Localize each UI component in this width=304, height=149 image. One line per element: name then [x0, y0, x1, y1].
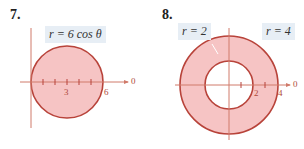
polar-axis-label-7: 0: [131, 76, 136, 86]
problem-8-number: 8.: [162, 7, 173, 23]
tick-label-6: 6: [104, 87, 109, 97]
tick-label-3: 3: [64, 87, 69, 97]
polar-axis-label-8: 0: [293, 79, 298, 89]
graph-8: [175, 28, 291, 140]
tick-label-2: 2: [254, 88, 259, 98]
graphs-canvas: [0, 0, 304, 149]
tick-label-4: 4: [278, 88, 283, 98]
problem-7-number: 7.: [10, 7, 21, 23]
outer-circle-label: r = 4: [262, 23, 295, 40]
problem-7-equation-label: r = 6 cos θ: [45, 26, 106, 43]
graph-7: [20, 28, 129, 128]
inner-circle-label: r = 2: [178, 23, 211, 40]
